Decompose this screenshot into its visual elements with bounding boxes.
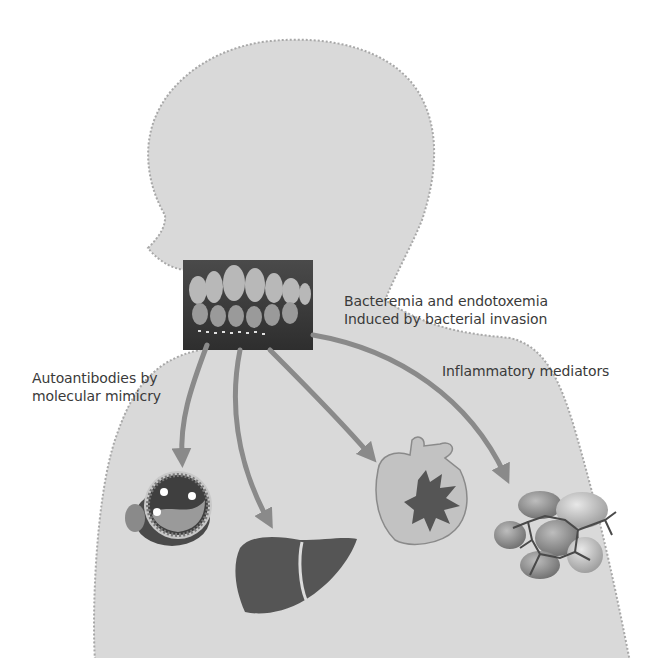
label-autoantibodies: Autoantibodies by molecular mimicry <box>32 369 161 405</box>
label-inflammatory-line1: Inflammatory mediators <box>442 362 609 380</box>
diagram-canvas: Bacteremia and endotoxemia Induced by ba… <box>0 0 660 662</box>
label-inflammatory-mediators: Inflammatory mediators <box>442 362 609 380</box>
label-bacteremia: Bacteremia and endotoxemia Induced by ba… <box>344 292 548 328</box>
label-bacteremia-line1: Bacteremia and endotoxemia <box>344 292 548 310</box>
label-bacteremia-line2: Induced by bacterial invasion <box>344 310 548 328</box>
label-autoantibodies-line1: Autoantibodies by <box>32 369 161 387</box>
oral-cavity-photo <box>183 260 313 350</box>
label-autoantibodies-line2: molecular mimicry <box>32 387 161 405</box>
